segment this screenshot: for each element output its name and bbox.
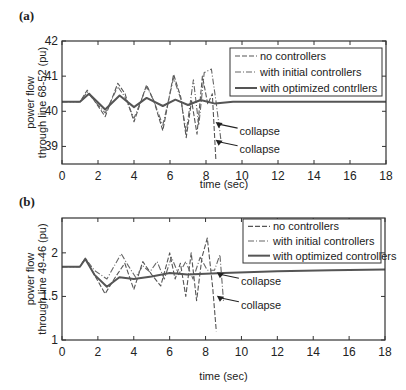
- legend-entry: no controllers: [260, 50, 327, 62]
- collapse-annotation: collapse: [240, 125, 280, 137]
- y-axis-label: through line 68-52 (pu): [36, 47, 48, 158]
- annotation-arrow: [219, 142, 238, 146]
- x-tick-label: 2: [95, 169, 102, 183]
- y-axis-label: through line 49-46 (pu): [36, 223, 48, 334]
- legend: no controllerswith initial controllerswi…: [230, 48, 382, 96]
- collapse-annotation: collapse: [241, 275, 281, 287]
- legend-entry: with initial controllers: [259, 66, 362, 78]
- x-tick-label: 8: [202, 345, 209, 359]
- x-tick-label: 14: [307, 169, 321, 183]
- chart-panel-a: 02468101214161839404142time (sec)power f…: [24, 34, 393, 190]
- x-axis-label: time (sec): [199, 370, 247, 382]
- chart-canvas: 02468101214161839404142time (sec)power f…: [0, 0, 406, 390]
- x-tick-label: 6: [167, 169, 174, 183]
- y-axis-label: power flow: [24, 253, 36, 306]
- legend-entry: with optimized contrllers: [259, 82, 378, 94]
- x-tick-label: 18: [379, 169, 393, 183]
- annotation-arrow: [219, 124, 238, 128]
- annotation-arrow: [220, 298, 239, 302]
- x-tick-label: 6: [166, 345, 173, 359]
- series-line-dashed: [62, 74, 216, 160]
- collapse-annotation: collapse: [240, 143, 280, 155]
- y-tick-label: 2: [51, 246, 58, 260]
- legend-entry: with optimized controllers: [272, 250, 397, 262]
- x-tick-label: 0: [59, 169, 66, 183]
- legend-entry: with initial controllers: [272, 235, 375, 247]
- x-tick-label: 12: [271, 169, 285, 183]
- y-axis-label: power flow: [24, 76, 36, 129]
- x-tick-label: 16: [343, 169, 357, 183]
- annotation-arrow: [220, 274, 239, 278]
- legend-entry: no controllers: [273, 220, 340, 232]
- x-axis-label: time (sec): [200, 178, 248, 190]
- legend: no controllerswith initial controllerswi…: [243, 219, 397, 263]
- x-tick-label: 0: [59, 345, 66, 359]
- collapse-annotation: collapse: [241, 299, 281, 311]
- series-line-dashed: [62, 238, 216, 331]
- x-tick-label: 14: [307, 345, 321, 359]
- chart-panel-b: 02468101214161811.52time (sec)power flow…: [24, 218, 397, 382]
- x-tick-label: 10: [235, 345, 249, 359]
- x-tick-label: 12: [271, 345, 285, 359]
- x-tick-label: 2: [95, 345, 102, 359]
- y-tick-label: 42: [45, 34, 59, 48]
- x-tick-label: 18: [378, 345, 392, 359]
- x-tick-label: 16: [342, 345, 356, 359]
- x-tick-label: 4: [131, 169, 138, 183]
- x-tick-label: 4: [130, 345, 137, 359]
- y-tick-label: 1: [51, 333, 58, 347]
